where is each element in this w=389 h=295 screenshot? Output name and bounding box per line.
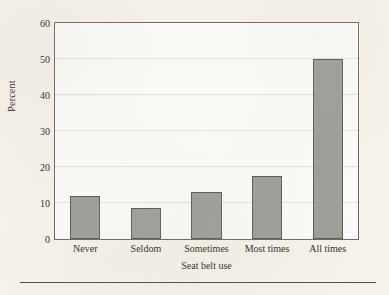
x-axis-tick-labels: NeverSeldomSometimesMost timesAll times xyxy=(55,243,358,259)
x-axis-tick-label: Never xyxy=(73,243,97,254)
y-axis-tick-labels: 0102030405060 xyxy=(26,22,50,240)
bars-container xyxy=(55,23,358,239)
x-axis-tick-label: All times xyxy=(309,243,346,254)
bar xyxy=(131,208,161,239)
bar xyxy=(252,176,282,239)
y-axis-tick-label: 40 xyxy=(26,90,50,101)
bar xyxy=(191,192,221,239)
y-axis-tick-label: 0 xyxy=(26,234,50,245)
bottom-divider-rule xyxy=(20,282,376,283)
x-axis-tick-label: Sometimes xyxy=(184,243,228,254)
bar xyxy=(70,196,100,239)
x-axis-tick-label: Seldom xyxy=(131,243,162,254)
y-axis-tick-label: 30 xyxy=(26,126,50,137)
bar xyxy=(313,59,343,239)
bar-chart-figure: Percent 0102030405060 NeverSeldomSometim… xyxy=(0,0,389,295)
y-axis-tick-label: 10 xyxy=(26,198,50,209)
y-axis-tick-label: 60 xyxy=(26,18,50,29)
x-axis-title: Seat belt use xyxy=(55,260,358,271)
y-axis-title: Percent xyxy=(6,56,17,136)
y-axis-tick-label: 50 xyxy=(26,54,50,65)
x-axis-tick-label: Most times xyxy=(245,243,290,254)
y-axis-tick-label: 20 xyxy=(26,162,50,173)
